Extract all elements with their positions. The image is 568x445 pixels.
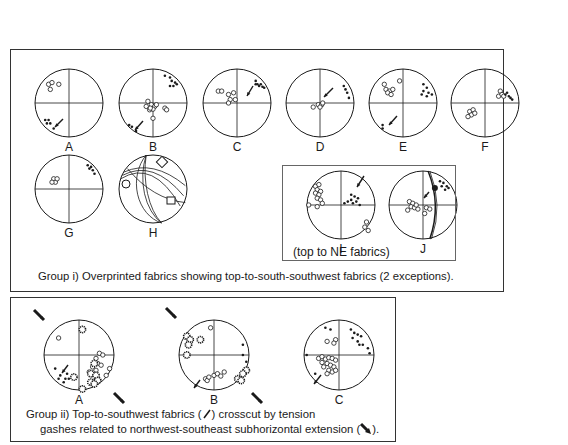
open-pole-point xyxy=(389,92,393,96)
subgroup-caption: (top to NE fabrics) xyxy=(293,245,390,259)
open-pole-point xyxy=(219,374,223,378)
open-pole-point xyxy=(332,341,336,345)
open-pole-point xyxy=(57,82,61,86)
stereonet-label: E xyxy=(399,140,407,154)
lineation-point xyxy=(356,333,359,336)
stereonet-label: D xyxy=(316,140,325,154)
lineation-point xyxy=(362,344,365,347)
tension-gash-point xyxy=(71,374,77,380)
open-pole-point xyxy=(56,336,60,340)
extension-arrow-icon xyxy=(360,423,372,435)
lineation-point xyxy=(176,83,179,86)
tension-gash-point xyxy=(238,377,244,383)
caption-text: ) crosscut by tension xyxy=(212,408,316,420)
open-pole-point xyxy=(321,101,325,105)
open-pole-point xyxy=(226,101,230,105)
open-pole-point xyxy=(320,360,324,364)
open-pole-point xyxy=(333,368,337,372)
lineation-point xyxy=(358,344,361,347)
stereonet-F: F xyxy=(451,69,519,154)
lineation-point xyxy=(52,127,55,130)
lineation-point xyxy=(360,335,363,338)
open-pole-point xyxy=(146,99,150,103)
tension-gash-point xyxy=(184,352,190,358)
lineation-point xyxy=(172,85,175,88)
lineation-point xyxy=(86,164,89,167)
group-ii-panel: ABC Group ii) Top-to-southwest fabrics (… xyxy=(10,297,396,442)
lineation-point xyxy=(254,80,257,83)
open-pole-point xyxy=(391,87,395,91)
open-pole-point xyxy=(473,111,477,115)
open-pole-point xyxy=(48,87,52,91)
caption-text: Group ii) Top-to-southwest fabrics ( xyxy=(26,408,202,420)
open-pole-point xyxy=(311,105,315,109)
stereonet-A: A xyxy=(35,69,103,154)
open-pole-point xyxy=(325,339,329,343)
open-pole-point xyxy=(220,89,224,93)
open-pole-point xyxy=(164,108,168,112)
lineation-point xyxy=(49,122,52,125)
lineation-point xyxy=(426,86,429,89)
open-pole-point xyxy=(382,82,386,86)
lineation-point xyxy=(245,361,248,364)
lineation-point xyxy=(314,372,317,375)
lineation-point xyxy=(64,378,67,381)
open-pole-point xyxy=(226,92,230,96)
lineation-point xyxy=(68,378,71,381)
primitive-circle xyxy=(119,155,187,223)
stereonet-label: C xyxy=(233,140,242,154)
group-ii-caption-line1: Group ii) Top-to-southwest fabrics () cr… xyxy=(26,408,315,420)
open-pole-point xyxy=(233,97,237,101)
lineation-point xyxy=(258,85,261,88)
stereonet-B: B xyxy=(119,69,187,154)
stereonet-label: A xyxy=(65,140,73,154)
stereonet-E: E xyxy=(369,69,437,154)
lineation-point xyxy=(305,354,308,357)
stereonet-label: H xyxy=(149,226,158,240)
lineation-point xyxy=(324,327,327,330)
open-pole-point xyxy=(151,116,155,120)
open-pole-point xyxy=(325,372,329,376)
open-pole-point xyxy=(148,106,152,110)
stereonet-label: G xyxy=(64,226,73,240)
lineation-point xyxy=(90,166,93,169)
lineation-point xyxy=(57,378,60,381)
lineation-point xyxy=(346,92,349,95)
open-pole-point xyxy=(207,375,211,379)
open-pole-point xyxy=(322,365,326,369)
lineation-point xyxy=(367,347,370,350)
lineation-point xyxy=(93,172,96,175)
stereonet-label: F xyxy=(481,140,488,154)
lineation-point xyxy=(422,83,425,86)
stereonet-D: D xyxy=(286,69,354,154)
group-i-caption: Group i) Overprinted fabrics showing top… xyxy=(38,270,454,282)
lineation-point xyxy=(351,337,354,340)
open-pole-point xyxy=(101,353,105,357)
stereonet-label: B xyxy=(210,393,218,407)
lineation-point xyxy=(169,85,172,88)
tension-gash-point xyxy=(240,371,246,377)
lineation-point xyxy=(426,95,429,98)
lineation-point xyxy=(350,328,353,331)
lineation-point xyxy=(427,92,430,95)
open-pole-point xyxy=(466,114,470,118)
lineation-point xyxy=(54,367,57,370)
lineation-point xyxy=(128,124,131,127)
caption-text: ). xyxy=(372,423,379,435)
lineation-point xyxy=(46,122,49,125)
open-pole-point xyxy=(50,80,54,84)
open-pole-point xyxy=(333,358,337,362)
stereonet-G: G xyxy=(35,155,103,240)
great-circle xyxy=(124,168,185,186)
group-i-panel: ABCDEFGHIJ Group i) Overprinted fabrics … xyxy=(10,49,504,292)
open-pole-point xyxy=(222,370,226,374)
tension-gash-point xyxy=(91,381,97,387)
lineation-point xyxy=(44,119,47,122)
stereonet-iiB: B xyxy=(166,308,262,407)
open-pole-point xyxy=(104,373,108,377)
lineation-point xyxy=(511,98,514,101)
lineation-point xyxy=(343,85,346,88)
stereonet-H: H xyxy=(119,155,187,240)
open-pole-point xyxy=(318,105,322,109)
lineation-point xyxy=(242,344,245,347)
